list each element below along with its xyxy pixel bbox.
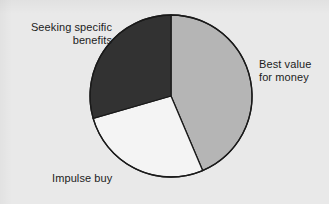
pie-label-best-value-for-money: Best value for money [259,58,325,84]
pie-label-impulse-buy: Impulse buy [52,172,148,185]
pie-label-seeking-specific-benefits: Seeking specific benefits [8,21,112,47]
pie-chart-figure: Seeking specific benefits Best value for… [0,0,329,204]
pie-slice-group [90,15,252,177]
